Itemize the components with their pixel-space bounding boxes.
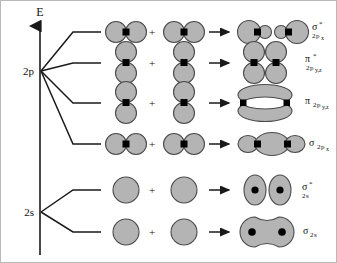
correlation-line-sigma-star-2s [41, 190, 101, 212]
orbital-label-sub-axis: y,z [315, 67, 322, 73]
orbital-label-sub-axis: x [326, 146, 329, 152]
nucleus-dot [181, 29, 188, 36]
energy-axis: E [36, 5, 43, 255]
s-orbital-circle-right [171, 219, 197, 245]
plus-operator: + [149, 57, 155, 69]
p-orbital-vertical-left [116, 42, 137, 84]
orbital-label-sub-orbital: s [314, 231, 317, 239]
p-orbital-vertical-right [174, 82, 195, 124]
nucleus-dot [240, 100, 247, 107]
nucleus-dot [254, 29, 261, 36]
plus-operator: + [149, 226, 155, 238]
orbital-label-sub-orbital: p [321, 143, 325, 151]
orbital-label-star: * [309, 180, 313, 188]
orbital-label-main: σ [303, 225, 309, 236]
nucleus-dot [251, 59, 258, 66]
nucleus-dot [278, 228, 286, 236]
p-orbital-horizontal-left [106, 134, 147, 155]
p-orbital-horizontal-left [106, 22, 147, 43]
s-orbital-circle-right [171, 177, 197, 203]
orbital-label-main: π [305, 53, 310, 64]
plus-operator: + [149, 97, 155, 109]
orbital-label-sigma-star-2px: σ * 2 p x [312, 20, 324, 41]
correlation-line-sigma-star-2px [41, 32, 101, 71]
p-orbital-vertical-left [116, 82, 137, 124]
p-orbital-vertical-right [174, 42, 195, 84]
orbital-label-main: σ [312, 21, 318, 32]
orbital-label-sub-orbital: s [306, 192, 309, 200]
product-pi-bonding-2pyz [238, 85, 292, 122]
nucleus-dot [123, 59, 130, 66]
orbital-label-main: σ [309, 137, 315, 148]
orbital-label-star: * [319, 20, 323, 28]
row-sigma-2s: + σ 2 s [113, 217, 317, 247]
atomic-level-label-2s: 2s [24, 206, 34, 218]
orbital-label-sub-axis: x [321, 35, 324, 41]
nucleus-dot [251, 186, 258, 193]
p-orbital-horizontal-right [164, 22, 205, 43]
orbital-label-main: σ [302, 181, 308, 192]
correlation-line-sigma-2s [41, 212, 101, 232]
orbital-label-sigma-2s: σ 2 s [303, 225, 317, 239]
orbital-label-sub-orbital: p [317, 101, 321, 109]
nucleus-dot [273, 59, 280, 66]
orbital-label-sigma-2px: σ 2 p x [309, 137, 329, 152]
nucleus-dot [181, 99, 188, 106]
product-sigma-antibonding-2px [238, 21, 309, 44]
nucleus-dot [284, 100, 291, 107]
s-orbital-circle-left [113, 219, 139, 245]
correlation-lines-2s [41, 190, 101, 232]
product-sigma-antibonding-2s [244, 175, 291, 205]
p-orbital-horizontal-right [164, 134, 205, 155]
correlation-line-sigma-2px [41, 71, 101, 144]
correlation-lines-2p [41, 32, 101, 144]
orbital-label-sigma-star-2s: σ * 2 s [302, 180, 313, 200]
nucleus-dot [284, 141, 291, 148]
plus-operator: + [149, 26, 155, 38]
plus-operator: + [149, 138, 155, 150]
orbital-label-sub-orbital: p [310, 64, 314, 72]
orbital-label-main: π [305, 95, 310, 106]
plus-operator: + [149, 184, 155, 196]
row-sigma-star-2s: + σ * 2 s [113, 175, 313, 205]
orbital-label-star: * [313, 52, 317, 60]
row-pi-2pyz: + π 2 p y,z [116, 82, 330, 124]
mo-diagram: E 2p 2s + [0, 0, 337, 263]
s-orbital-circle-left [113, 177, 139, 203]
row-sigma-2px: + σ 2 p x [106, 133, 330, 156]
energy-axis-label: E [36, 5, 43, 19]
product-pi-antibonding-2pyz [244, 42, 287, 84]
nucleus-dot [276, 186, 283, 193]
atomic-level-label-2p: 2p [23, 65, 35, 77]
product-sigma-bonding-2s [240, 217, 294, 247]
nucleus-dot [248, 228, 256, 236]
product-sigma-bonding-2px [238, 133, 305, 156]
nucleus-dot [123, 29, 130, 36]
nucleus-dot [181, 59, 188, 66]
nucleus-dot [123, 141, 130, 148]
nucleus-dot [181, 141, 188, 148]
correlation-line-pi-2pyz [41, 71, 101, 103]
nucleus-dot [285, 29, 292, 36]
orbital-label-pi-2pyz: π 2 p y,z [305, 95, 329, 110]
nucleus-dot [123, 99, 130, 106]
orbital-label-pi-star-2pyz: π * 2 p y,z [305, 52, 322, 73]
orbital-label-sub-orbital: p [316, 32, 320, 40]
row-pi-star-2pyz: + π * 2 p y,z [116, 42, 323, 84]
row-sigma-star-2px: + σ * 2 p x [106, 20, 325, 44]
orbital-label-sub-axis: y,z [322, 104, 329, 110]
correlation-line-pi-star-2pyz [41, 63, 101, 71]
nucleus-dot [254, 141, 261, 148]
